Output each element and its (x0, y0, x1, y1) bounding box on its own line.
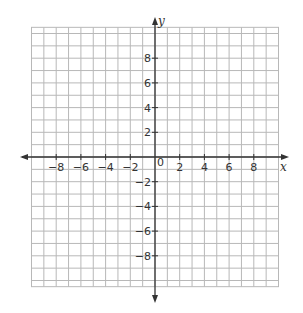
x-tick-label: 6 (226, 161, 233, 174)
y-tick-label: −8 (135, 250, 151, 263)
y-axis-down-arrow-icon (152, 295, 158, 303)
x-tick-label: −8 (48, 161, 64, 174)
y-tick-label: −6 (135, 225, 151, 238)
x-tick-label: −4 (97, 161, 113, 174)
y-tick-label: −2 (135, 176, 151, 189)
y-axis-label: y (157, 14, 165, 28)
y-tick-label: 2 (144, 126, 151, 139)
x-tick-label: 2 (176, 161, 183, 174)
x-axis-label: x (280, 160, 287, 174)
axes (20, 17, 289, 303)
x-tick-label: −6 (73, 161, 89, 174)
x-tick-label: 8 (250, 161, 257, 174)
origin-label: 0 (157, 156, 164, 169)
x-tick-label: 4 (201, 161, 208, 174)
y-tick-label: −4 (135, 200, 151, 213)
x-tick-label: −2 (122, 161, 138, 174)
y-tick-label: 6 (144, 77, 151, 90)
coordinate-plane: −8−6−4−22468 8642−2−4−6−8 x y 0 (0, 0, 303, 313)
x-axis-left-arrow-icon (20, 154, 28, 160)
y-tick-label: 4 (144, 102, 151, 115)
y-tick-label: 8 (144, 52, 151, 65)
